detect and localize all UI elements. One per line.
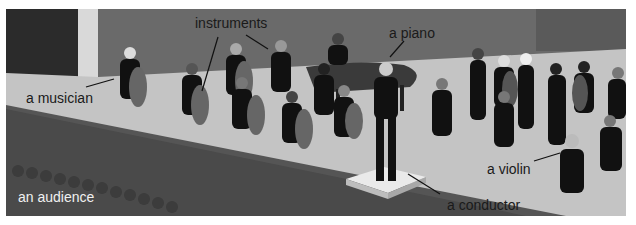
orchestra-illustration: instruments a piano a musician a violin … xyxy=(6,9,626,216)
label-instruments: instruments xyxy=(195,16,267,30)
wing-panel xyxy=(78,9,98,77)
curtain xyxy=(6,9,78,79)
scene-drawing xyxy=(6,9,626,216)
label-audience: an audience xyxy=(18,190,94,204)
back-wall-right xyxy=(536,9,626,51)
label-conductor: a conductor xyxy=(447,198,520,212)
label-piano: a piano xyxy=(389,26,435,40)
label-violin: a violin xyxy=(487,162,531,176)
label-musician: a musician xyxy=(26,91,93,105)
